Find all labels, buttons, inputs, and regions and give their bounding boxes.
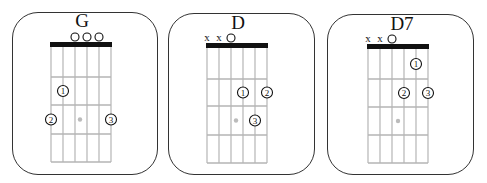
finger-number: 1 — [241, 88, 246, 98]
chord-name: D — [231, 12, 245, 33]
finger-number: 2 — [49, 115, 54, 125]
chord-name: D7 — [390, 13, 413, 34]
finger-number: 2 — [265, 88, 270, 98]
nut — [50, 42, 112, 47]
open-string-icon — [388, 35, 396, 43]
finger-number: 2 — [402, 88, 407, 98]
finger-number: 3 — [253, 116, 258, 126]
muted-string-icon: x — [216, 31, 222, 43]
fret-marker-dot — [78, 117, 82, 121]
chord-d: Dxx123 — [204, 12, 272, 163]
open-string-icon — [227, 34, 235, 42]
finger-number: 1 — [61, 86, 66, 96]
finger-position: 1 — [58, 86, 69, 97]
open-string-icon — [95, 33, 103, 41]
open-string-icon — [71, 33, 79, 41]
finger-position: 2 — [262, 87, 273, 98]
muted-string-icon: x — [365, 32, 371, 44]
finger-position: 1 — [411, 59, 422, 70]
chord-diagrams: G123Dxx123D7xx123 — [0, 0, 487, 183]
finger-position: 1 — [238, 87, 249, 98]
muted-string-icon: x — [204, 31, 210, 43]
finger-number: 1 — [414, 59, 419, 69]
nut — [206, 43, 268, 48]
finger-position: 2 — [399, 88, 410, 99]
open-string-icon — [83, 33, 91, 41]
fret-marker-dot — [234, 118, 238, 122]
finger-number: 3 — [109, 115, 114, 125]
finger-position: 3 — [106, 114, 117, 125]
finger-position: 3 — [423, 88, 434, 99]
fret-marker-dot — [396, 119, 400, 123]
finger-number: 3 — [426, 88, 431, 98]
muted-string-icon: x — [377, 32, 383, 44]
finger-position: 2 — [46, 114, 57, 125]
chord-g: G123 — [46, 10, 117, 162]
nut — [367, 44, 429, 49]
chord-d7: D7xx123 — [365, 13, 433, 163]
finger-position: 3 — [250, 115, 261, 126]
chord-name: G — [75, 10, 89, 31]
